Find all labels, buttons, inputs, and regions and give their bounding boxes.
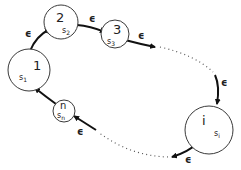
edge-label-in-i: ϵ xyxy=(221,77,227,88)
edge-label-in-n: ϵ xyxy=(77,126,83,137)
edge-label-1-2: ϵ xyxy=(25,28,31,39)
edge-label-i-out: ϵ xyxy=(185,154,191,165)
state-label-3: 3 xyxy=(113,22,121,37)
state-cycle-diagram: ϵ ϵ ϵ ϵ ϵ ϵ 1 s1 2 s2 3 s3 i si n sn xyxy=(0,0,241,170)
edge-ellipsis-to-i xyxy=(215,75,218,104)
ellipsis-top-right xyxy=(160,47,213,72)
state-node-n: n sn xyxy=(53,100,75,122)
edge-label-2-3: ϵ xyxy=(89,13,95,24)
state-label-i: i xyxy=(202,113,206,128)
state-label-n: n xyxy=(60,100,66,111)
state-node-i: i si xyxy=(185,106,233,154)
ellipsis-bottom-left xyxy=(98,132,168,157)
edge-3-to-ellipsis xyxy=(125,40,155,47)
state-node-1: 1 s1 xyxy=(8,49,50,91)
edge-2-to-3 xyxy=(77,25,105,32)
state-label-1: 1 xyxy=(33,58,41,73)
edge-label-3-out: ϵ xyxy=(138,30,144,41)
state-node-2: 2 s2 xyxy=(44,5,78,39)
state-label-2: 2 xyxy=(56,10,64,25)
state-node-3: 3 s3 xyxy=(101,20,129,48)
edge-n-to-1 xyxy=(35,88,56,104)
